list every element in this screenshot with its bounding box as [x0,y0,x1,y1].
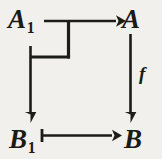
edge-label-f: f [139,64,145,83]
node-B-base: B [124,124,142,154]
node-A1-base: A [8,4,26,34]
node-B1-subscript: 1 [28,139,36,156]
node-label-A1: A1 [8,6,34,33]
edge-top-A1-to-A [44,15,126,27]
edge-right-A-to-B [125,34,137,123]
node-label-B: B [124,126,142,153]
pullback-corner-marker [30,20,70,59]
edge-bottom-B1-to-B [42,129,122,142]
node-label-B1: B1 [9,126,35,153]
node-label-A: A [122,6,140,33]
node-A-base: A [122,4,140,34]
node-B1-base: B [9,124,27,154]
commutative-diagram: A1 A B1 B f [0,0,162,159]
node-A1-subscript: 1 [27,19,35,36]
